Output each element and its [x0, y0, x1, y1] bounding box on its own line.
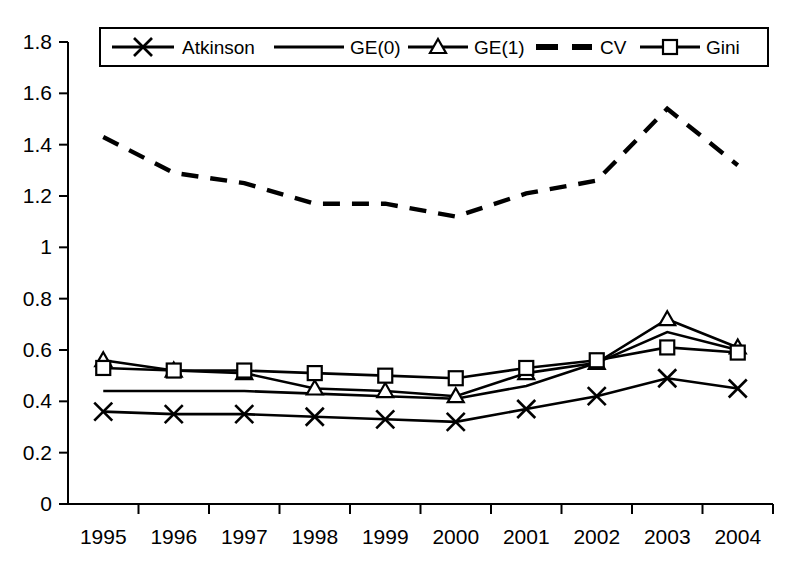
x-axis-tick-label: 1997: [221, 525, 268, 548]
x-axis-tick-label: 2000: [432, 525, 479, 548]
legend-item-label: GE(1): [474, 37, 525, 58]
x-axis-tick-label: 1998: [291, 525, 338, 548]
square-marker: [308, 366, 322, 380]
y-axis-tick-label: 0.2: [23, 441, 52, 464]
x-axis-tick-label: 1999: [362, 525, 409, 548]
legend-item-label: GE(0): [350, 37, 401, 58]
legend-item-label: Gini: [706, 37, 740, 58]
square-marker: [237, 364, 251, 378]
y-axis-tick-label: 1.4: [23, 133, 53, 156]
square-marker: [449, 371, 463, 385]
square-marker: [519, 361, 533, 375]
x-axis-tick-label: 1995: [80, 525, 127, 548]
y-axis-tick-label: 0: [40, 492, 52, 515]
y-axis-tick-label: 1.2: [23, 184, 52, 207]
x-axis-tick-label: 2004: [714, 525, 761, 548]
square-marker: [96, 361, 110, 375]
y-axis-tick-label: 1.8: [23, 30, 52, 53]
x-axis-tick-label: 2001: [503, 525, 550, 548]
chart-legend: AtkinsonGE(0)GE(1)CVGini: [100, 28, 768, 66]
y-axis-tick-label: 1.6: [23, 81, 52, 104]
legend-item-label: Atkinson: [182, 37, 255, 58]
x-axis-tick-label: 2002: [573, 525, 620, 548]
square-marker: [590, 353, 604, 367]
chart-background: [0, 0, 792, 567]
square-marker: [378, 369, 392, 383]
square-marker: [660, 340, 674, 354]
line-chart: 00.20.40.60.811.21.41.61.8 1995199619971…: [0, 0, 792, 567]
square-marker: [663, 40, 677, 54]
x-axis-tick-label: 1996: [150, 525, 197, 548]
y-axis-tick-label: 0.6: [23, 338, 52, 361]
y-axis-tick-label: 1: [40, 235, 52, 258]
y-axis-tick-label: 0.8: [23, 287, 52, 310]
legend-item-label: CV: [600, 37, 627, 58]
x-axis-tick-label: 2003: [644, 525, 691, 548]
chart-container: 00.20.40.60.811.21.41.61.8 1995199619971…: [0, 0, 792, 567]
square-marker: [731, 346, 745, 360]
square-marker: [167, 364, 181, 378]
y-axis-tick-label: 0.4: [23, 389, 53, 412]
